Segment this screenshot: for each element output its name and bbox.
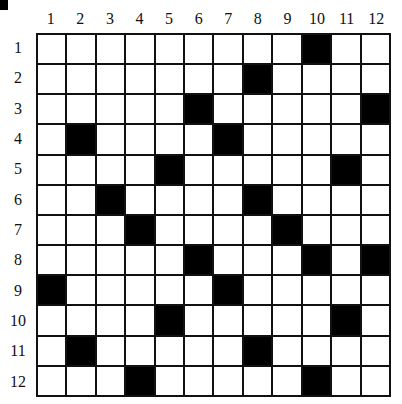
white-cell[interactable] — [156, 125, 183, 153]
white-cell[interactable] — [332, 367, 359, 395]
white-cell[interactable] — [156, 246, 183, 274]
white-cell[interactable] — [244, 246, 271, 274]
white-cell[interactable] — [214, 35, 241, 63]
white-cell[interactable] — [67, 306, 94, 334]
white-cell[interactable] — [67, 65, 94, 93]
white-cell[interactable] — [67, 246, 94, 274]
white-cell[interactable] — [362, 337, 389, 365]
white-cell[interactable] — [38, 216, 65, 244]
white-cell[interactable] — [67, 186, 94, 214]
black-cell[interactable] — [244, 65, 271, 93]
white-cell[interactable] — [244, 156, 271, 184]
white-cell[interactable] — [126, 246, 153, 274]
white-cell[interactable] — [97, 367, 124, 395]
white-cell[interactable] — [156, 35, 183, 63]
black-cell[interactable] — [67, 337, 94, 365]
white-cell[interactable] — [185, 35, 212, 63]
white-cell[interactable] — [332, 337, 359, 365]
black-cell[interactable] — [185, 246, 212, 274]
black-cell[interactable] — [214, 125, 241, 153]
black-cell[interactable] — [156, 156, 183, 184]
white-cell[interactable] — [332, 65, 359, 93]
white-cell[interactable] — [126, 186, 153, 214]
white-cell[interactable] — [273, 35, 300, 63]
black-cell[interactable] — [244, 337, 271, 365]
white-cell[interactable] — [273, 367, 300, 395]
white-cell[interactable] — [38, 306, 65, 334]
white-cell[interactable] — [303, 216, 330, 244]
white-cell[interactable] — [185, 186, 212, 214]
white-cell[interactable] — [97, 216, 124, 244]
white-cell[interactable] — [273, 306, 300, 334]
white-cell[interactable] — [303, 276, 330, 304]
white-cell[interactable] — [38, 156, 65, 184]
white-cell[interactable] — [156, 337, 183, 365]
white-cell[interactable] — [97, 276, 124, 304]
black-cell[interactable] — [332, 306, 359, 334]
white-cell[interactable] — [273, 246, 300, 274]
white-cell[interactable] — [303, 337, 330, 365]
white-cell[interactable] — [67, 35, 94, 63]
white-cell[interactable] — [332, 95, 359, 123]
white-cell[interactable] — [214, 65, 241, 93]
white-cell[interactable] — [244, 216, 271, 244]
white-cell[interactable] — [214, 156, 241, 184]
white-cell[interactable] — [362, 276, 389, 304]
white-cell[interactable] — [126, 65, 153, 93]
white-cell[interactable] — [303, 95, 330, 123]
white-cell[interactable] — [273, 65, 300, 93]
black-cell[interactable] — [362, 246, 389, 274]
white-cell[interactable] — [303, 306, 330, 334]
white-cell[interactable] — [126, 125, 153, 153]
white-cell[interactable] — [38, 337, 65, 365]
white-cell[interactable] — [38, 186, 65, 214]
white-cell[interactable] — [185, 337, 212, 365]
black-cell[interactable] — [303, 35, 330, 63]
white-cell[interactable] — [332, 125, 359, 153]
white-cell[interactable] — [97, 65, 124, 93]
white-cell[interactable] — [97, 125, 124, 153]
black-cell[interactable] — [362, 95, 389, 123]
white-cell[interactable] — [97, 156, 124, 184]
white-cell[interactable] — [97, 35, 124, 63]
white-cell[interactable] — [362, 186, 389, 214]
white-cell[interactable] — [38, 246, 65, 274]
black-cell[interactable] — [97, 186, 124, 214]
white-cell[interactable] — [273, 337, 300, 365]
white-cell[interactable] — [126, 276, 153, 304]
white-cell[interactable] — [244, 125, 271, 153]
white-cell[interactable] — [303, 156, 330, 184]
white-cell[interactable] — [156, 65, 183, 93]
black-cell[interactable] — [273, 216, 300, 244]
black-cell[interactable] — [332, 156, 359, 184]
white-cell[interactable] — [273, 186, 300, 214]
white-cell[interactable] — [244, 35, 271, 63]
white-cell[interactable] — [214, 246, 241, 274]
black-cell[interactable] — [185, 95, 212, 123]
white-cell[interactable] — [97, 337, 124, 365]
white-cell[interactable] — [126, 35, 153, 63]
white-cell[interactable] — [185, 276, 212, 304]
white-cell[interactable] — [362, 65, 389, 93]
white-cell[interactable] — [97, 95, 124, 123]
white-cell[interactable] — [38, 35, 65, 63]
white-cell[interactable] — [214, 186, 241, 214]
white-cell[interactable] — [332, 186, 359, 214]
white-cell[interactable] — [38, 367, 65, 395]
white-cell[interactable] — [244, 306, 271, 334]
white-cell[interactable] — [67, 156, 94, 184]
white-cell[interactable] — [126, 95, 153, 123]
white-cell[interactable] — [332, 216, 359, 244]
white-cell[interactable] — [185, 156, 212, 184]
white-cell[interactable] — [362, 125, 389, 153]
white-cell[interactable] — [97, 306, 124, 334]
white-cell[interactable] — [332, 35, 359, 63]
black-cell[interactable] — [156, 306, 183, 334]
white-cell[interactable] — [332, 276, 359, 304]
white-cell[interactable] — [126, 306, 153, 334]
white-cell[interactable] — [362, 306, 389, 334]
black-cell[interactable] — [214, 276, 241, 304]
white-cell[interactable] — [67, 216, 94, 244]
white-cell[interactable] — [362, 216, 389, 244]
white-cell[interactable] — [273, 125, 300, 153]
